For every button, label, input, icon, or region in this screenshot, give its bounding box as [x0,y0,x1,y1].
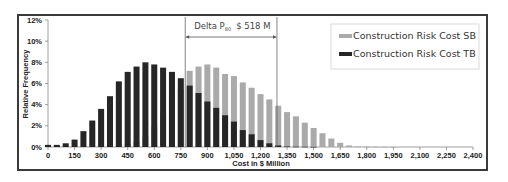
x-tick-label: 1,500 [304,151,323,160]
bar-tb [142,62,148,147]
bar-tb [311,147,317,148]
bar-sb [328,139,334,147]
bar-sb [266,99,272,147]
legend-swatch-tb [339,52,352,56]
bar-tb [302,147,308,148]
x-tick-label: 300 [95,151,108,160]
bar-tb [257,140,263,147]
x-tick-label: 900 [201,151,214,160]
bar-tb [107,96,113,147]
bar-tb [204,101,210,147]
bar-tb [98,109,104,147]
y-tick-label: 6% [31,79,42,88]
bar-tb [80,131,86,147]
bar-tb [63,143,69,147]
bar-sb [302,123,308,147]
bar-tb [178,78,184,147]
bar-tb [134,67,140,147]
histogram-chart: 0%2%4%6%8%10%12% 01503004506007509001,05… [0,0,508,182]
bar-sb [337,143,343,147]
y-tick-label: 2% [31,121,42,130]
x-tick-label: 750 [175,151,188,160]
bar-tb [222,115,228,147]
x-tick-label: 2,100 [410,151,429,160]
delta-label-main: Delta P [194,21,225,31]
bar-tb [187,86,193,147]
bar-tb [240,130,246,147]
bar-sb [373,147,379,148]
bar-tb [213,108,219,147]
bar-sb [284,112,290,147]
x-tick-label: 2,250 [437,151,456,160]
delta-label-sub: 80 [225,26,231,32]
bar-tb [249,134,255,147]
bar-tb [169,72,175,147]
x-tick-label: 450 [121,151,134,160]
bar-sb [311,128,317,147]
bar-tb [116,81,122,147]
bar-tb [45,145,51,147]
bar-tb [125,72,131,147]
legend-swatch-sb [339,34,352,38]
bar-tb [293,147,299,148]
bar-sb [364,147,370,148]
bar-sb [355,146,361,147]
bar-sb [319,133,325,147]
x-tick-label: 150 [68,151,81,160]
arrowhead-right-icon [273,35,277,39]
y-tick-label: 0% [31,143,42,152]
x-tick-label: 0 [46,151,50,160]
bar-tb [151,64,157,147]
y-tick-label: 12% [27,16,42,25]
bar-sb [293,116,299,147]
bar-tb [275,145,281,147]
x-tick-label: 1,650 [331,151,350,160]
y-tick-label: 4% [31,100,42,109]
bar-tb [72,140,78,147]
bar-tb [231,122,237,147]
delta-label-value: $ 518 M [236,21,270,31]
arrowhead-left-icon [185,35,189,39]
bar-tb [284,146,290,147]
x-tick-label: 600 [148,151,161,160]
bar-tb [266,143,272,147]
bar-sb [275,106,281,147]
bar-tb [160,68,166,147]
x-tick-label: 1,800 [357,151,376,160]
bar-tb [196,93,202,147]
bar-sb [381,147,387,148]
x-axis-title: Cost in $ Million [232,159,290,168]
bar-sb [390,147,396,148]
legend-label-tb: Construction Risk Cost TB [353,48,476,59]
legend: Construction Risk Cost SB Construction R… [331,24,479,69]
bar-sb [257,94,263,147]
bar-tb [89,121,95,147]
x-tick-label: 1,950 [384,151,403,160]
bar-tb [54,145,60,147]
y-tick-label: 8% [31,58,42,67]
y-tick-label: 10% [27,37,42,46]
bar-sb [346,145,352,147]
x-tick-label: 2,400 [464,151,483,160]
delta-label: Delta P80$ 518 M [194,21,270,32]
y-axis: 0%2%4%6%8%10%12% [27,16,48,152]
y-axis-title: Relative Frequency [21,49,30,119]
legend-label-sb: Construction Risk Cost SB [353,30,476,41]
